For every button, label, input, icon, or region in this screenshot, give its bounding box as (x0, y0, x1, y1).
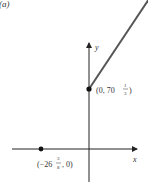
svg-text:): ) (129, 86, 132, 95)
panel-label: (a) (0, 0, 10, 9)
y-axis-label: y (94, 43, 99, 52)
svg-text:3: 3 (57, 156, 60, 161)
svg-text:8: 8 (57, 165, 60, 170)
x-axis-label: x (132, 155, 137, 164)
line-graph: (a) y x (0, 70 1 3 ) (−26 3 8 , 0) (0, 0, 148, 182)
y-intercept-label: (0, 70 1 3 ) (96, 83, 132, 96)
svg-text:3: 3 (124, 91, 127, 96)
x-intercept-label: (−26 3 8 , 0) (37, 156, 73, 170)
svg-text:(−26: (−26 (37, 160, 52, 169)
svg-text:(0, 70: (0, 70 (96, 86, 115, 95)
svg-text:, 0): , 0) (62, 160, 73, 169)
svg-text:1: 1 (124, 83, 127, 88)
y-intercept-point (86, 86, 91, 91)
x-intercept-point (39, 147, 44, 152)
